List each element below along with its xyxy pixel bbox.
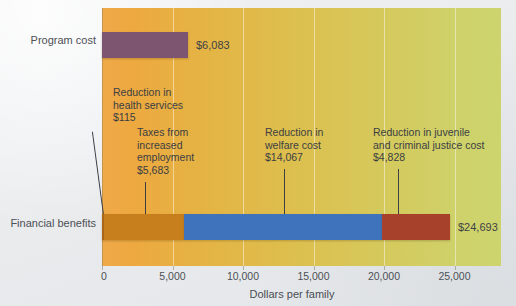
bar-program-cost[interactable] (102, 32, 188, 58)
annotation-taxes-line4: $5,683 (137, 164, 194, 177)
annotation-welfare-line2: welfare cost (265, 139, 323, 152)
category-label-financial-benefits: Financial benefits (2, 217, 96, 229)
annotation-taxes: Taxes from increased employment $5,683 (137, 126, 194, 176)
tick-label-20000: 20,000 (368, 270, 400, 282)
annotation-taxes-line2: increased (137, 139, 194, 152)
annotation-welfare: Reduction in welfare cost $14,067 (265, 126, 323, 164)
bar-value-financial-benefits: $24,693 (458, 221, 498, 233)
annotation-justice-line2: and criminal justice cost (373, 139, 484, 152)
annotation-justice-line1: Reduction in juvenile (373, 126, 484, 139)
leader-line-justice (398, 169, 399, 215)
annotation-health-services-line2: health services (113, 99, 183, 112)
tick-label-15000: 15,000 (297, 270, 329, 282)
tick-label-0: 0 (101, 270, 107, 282)
annotation-health-services-line3: $115 (113, 111, 183, 124)
tick-label-5000: 5,000 (159, 270, 185, 282)
bar-segment-taxes[interactable] (104, 214, 184, 240)
bar-financial-benefits[interactable] (102, 214, 450, 240)
tick-label-25000: 25,000 (438, 270, 470, 282)
annotation-health-services-line1: Reduction in (113, 86, 183, 99)
bar-segment-program-cost[interactable] (102, 32, 188, 58)
annotation-welfare-line1: Reduction in (265, 126, 323, 139)
category-label-program-cost: Program cost (2, 34, 96, 46)
tick-label-10000: 10,000 (227, 270, 259, 282)
bar-value-program-cost: $6,083 (196, 39, 230, 51)
bar-segment-welfare[interactable] (184, 214, 382, 240)
annotation-taxes-line3: employment (137, 151, 194, 164)
annotation-justice: Reduction in juvenile and criminal justi… (373, 126, 484, 164)
annotation-health-services: Reduction in health services $115 (113, 86, 183, 124)
x-axis-title: Dollars per family (250, 288, 335, 300)
annotation-justice-line3: $4,828 (373, 151, 484, 164)
leader-line-welfare (284, 169, 285, 215)
horizontal-stacked-bar-chart: Program cost $6,083 Reduction in health … (0, 0, 516, 306)
bar-segment-justice[interactable] (382, 214, 450, 240)
annotation-taxes-line1: Taxes from (137, 126, 194, 139)
annotation-welfare-line3: $14,067 (265, 151, 323, 164)
leader-line-taxes (145, 182, 146, 215)
